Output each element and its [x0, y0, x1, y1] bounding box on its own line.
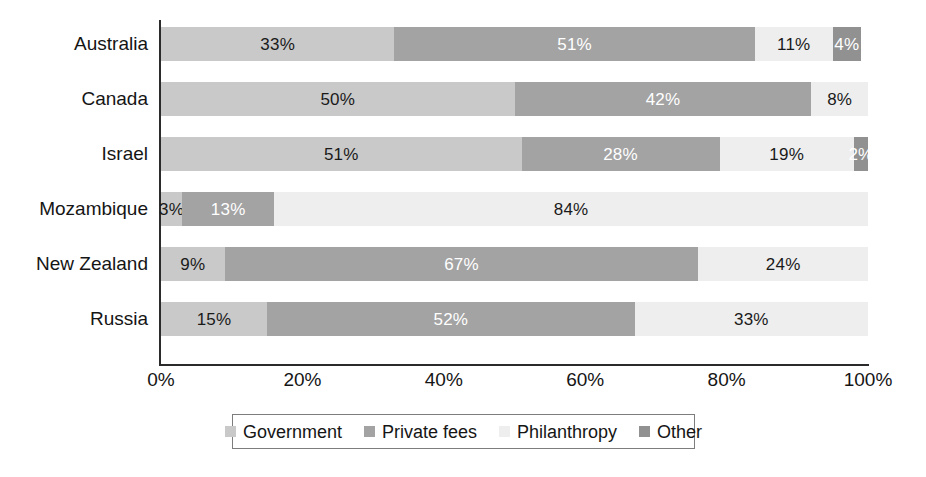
bar-segment: 13%: [182, 192, 274, 226]
category-label: Israel: [0, 144, 148, 163]
bar-segment: 84%: [274, 192, 868, 226]
bar-segment: 4%: [833, 27, 861, 61]
bar-segment-value-label: 4%: [834, 36, 859, 53]
bar-segment-value-label: 42%: [646, 91, 681, 108]
legend-label: Government: [243, 423, 342, 441]
bar-segment-value-label: 2%: [848, 146, 873, 163]
bar-segment: 52%: [267, 302, 635, 336]
category-label: Australia: [0, 34, 148, 53]
bar-segment-value-label: 84%: [554, 201, 589, 218]
category-label: Canada: [0, 89, 148, 108]
bar-segment-value-label: 15%: [197, 311, 232, 328]
legend-label: Philanthropy: [517, 423, 617, 441]
legend-swatch-icon: [639, 426, 650, 437]
bar-row: 15%52%33%: [161, 302, 868, 336]
bar-segment-value-label: 50%: [320, 91, 355, 108]
category-label: Russia: [0, 309, 148, 328]
legend-swatch-icon: [225, 426, 236, 437]
bar-segment-value-label: 24%: [766, 256, 801, 273]
bar-segment: 33%: [635, 302, 868, 336]
x-tick-label: 60%: [566, 370, 604, 389]
category-label: New Zealand: [0, 254, 148, 273]
bar-segment: 11%: [755, 27, 833, 61]
bar-segment: 3%: [161, 192, 182, 226]
legend: GovernmentPrivate feesPhilanthropyOther: [232, 414, 695, 449]
legend-item[interactable]: Philanthropy: [499, 423, 617, 441]
bar-segment: 9%: [161, 247, 225, 281]
bar-segment: 8%: [811, 82, 868, 116]
legend-item[interactable]: Other: [639, 423, 702, 441]
bar-segment-value-label: 67%: [444, 256, 479, 273]
bar-segment: 19%: [720, 137, 854, 171]
bar-segment-value-label: 11%: [777, 36, 810, 53]
bar-segment: 51%: [394, 27, 755, 61]
bar-row: 33%51%11%4%: [161, 27, 868, 61]
legend-swatch-icon: [499, 426, 510, 437]
x-axis-line: [159, 364, 869, 366]
bar-segment: 28%: [522, 137, 720, 171]
bar-row: 9%67%24%: [161, 247, 868, 281]
bar-segment: 24%: [698, 247, 868, 281]
legend-swatch-icon: [364, 426, 375, 437]
bar-segment-value-label: 8%: [827, 91, 852, 108]
bar-segment: 33%: [161, 27, 394, 61]
bar-segment: 51%: [161, 137, 522, 171]
bar-row: 50%42%8%: [161, 82, 868, 116]
bar-segment-value-label: 33%: [260, 36, 295, 53]
bar-segment-value-label: 51%: [557, 36, 592, 53]
bar-segment-value-label: 33%: [734, 311, 769, 328]
legend-item[interactable]: Government: [225, 423, 342, 441]
bar-row: 3%13%84%: [161, 192, 868, 226]
bar-segment: 50%: [161, 82, 515, 116]
bar-segment-value-label: 19%: [769, 146, 804, 163]
bar-segment: 15%: [161, 302, 267, 336]
bar-segment: 42%: [515, 82, 812, 116]
bar-segment: 2%: [854, 137, 868, 171]
bar-segment-value-label: 9%: [180, 256, 205, 273]
x-tick-label: 0%: [147, 370, 174, 389]
bar-segment-value-label: 13%: [211, 201, 246, 218]
bar-segment-value-label: 51%: [324, 146, 359, 163]
bar-segment-value-label: 28%: [603, 146, 638, 163]
x-tick-label: 40%: [425, 370, 463, 389]
x-tick-label: 20%: [283, 370, 321, 389]
stacked-bar-chart: AustraliaCanadaIsraelMozambiqueNew Zeala…: [0, 0, 926, 477]
bar-row: 51%28%19%2%: [161, 137, 868, 171]
bar-segment-value-label: 52%: [434, 311, 469, 328]
legend-label: Other: [657, 423, 702, 441]
bar-segment: 67%: [225, 247, 699, 281]
plot-area: AustraliaCanadaIsraelMozambiqueNew Zeala…: [0, 0, 926, 370]
bar-segment-value-label: 3%: [159, 201, 184, 218]
category-label: Mozambique: [0, 199, 148, 218]
legend-item[interactable]: Private fees: [364, 423, 477, 441]
x-tick-label: 100%: [844, 370, 893, 389]
x-tick-label: 80%: [708, 370, 746, 389]
legend-label: Private fees: [382, 423, 477, 441]
